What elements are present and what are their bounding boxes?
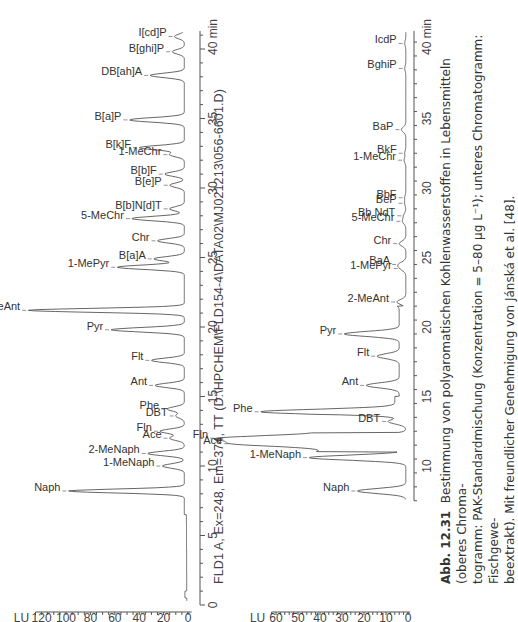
figure-number: Abb. 12.31 xyxy=(439,511,453,584)
y-tick-label: 60 xyxy=(269,611,283,622)
peak-label: DBT xyxy=(358,412,380,424)
peak-label: Ant xyxy=(342,375,359,387)
y-unit-label: LU xyxy=(250,611,265,622)
caption-line-3: beextrakt). Mit freundlicher Genehmigung… xyxy=(503,196,517,584)
figure-caption: Abb. 12.31 Bestimmung von polyaromatisch… xyxy=(438,24,518,584)
y-tick-label: 50 xyxy=(291,611,305,622)
peak-label: Flt xyxy=(357,346,369,358)
y-tick-label: 10 xyxy=(379,611,393,622)
peak-label: 1-MeNaph xyxy=(250,448,301,460)
y-tick-label: 20 xyxy=(357,611,371,622)
x-tick-label: 25 xyxy=(420,251,434,265)
peak-label: BaP xyxy=(373,120,394,132)
x-tick-label: 35 xyxy=(420,112,434,126)
peak-label: BkF xyxy=(377,143,397,155)
peak-label: Naph xyxy=(323,481,349,493)
bottom-chromatogram-plot: 10152025303540 min0102030405060LUNaph1-M… xyxy=(0,0,430,622)
caption-line-2: togramm: PAK-Standardmischung (Konzentra… xyxy=(471,35,501,584)
x-tick-label: 30 xyxy=(420,181,434,195)
y-tick-label: 0 xyxy=(405,611,412,622)
y-tick-label: 40 xyxy=(313,611,327,622)
x-tick-label: 10 xyxy=(420,459,434,473)
caption-line-1: Bestimmung von polyaromatischen Kohlenwa… xyxy=(439,58,469,584)
peak-label: 2-MeAnt xyxy=(347,292,389,304)
peak-label: Phe xyxy=(233,402,253,414)
x-tick-label: 40 min xyxy=(420,19,434,55)
bottom-chromatogram: 10152025303540 min0102030405060LUNaph1-M… xyxy=(0,0,430,622)
y-tick-label: 30 xyxy=(335,611,349,622)
peak-label: Chr xyxy=(373,234,391,246)
peak-label: Pyr xyxy=(320,324,337,336)
peak-label: Fln xyxy=(193,428,208,440)
peak-label: BaA xyxy=(369,254,390,266)
peak-label: Bb NdT xyxy=(358,206,396,218)
peak-label: BghiP xyxy=(367,58,396,70)
x-tick-label: 15 xyxy=(420,390,434,404)
peak-label: IcdP xyxy=(375,33,397,45)
peak-label: BbF xyxy=(376,188,396,200)
x-tick-label: 20 xyxy=(420,320,434,334)
